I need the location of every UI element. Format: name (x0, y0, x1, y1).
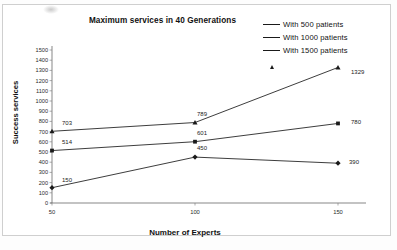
y-tick-label: 300 (22, 169, 48, 175)
y-tick-label: 1400 (22, 57, 48, 63)
series-2 (50, 65, 341, 133)
x-tick-label: 50 (37, 209, 67, 215)
x-tick-label: 100 (180, 209, 210, 215)
y-tick-label: 200 (22, 180, 48, 186)
chart-page: Maximum services in 40 Generations With … (0, 0, 397, 250)
data-point-label: 780 (351, 119, 361, 125)
y-tick-label: 600 (22, 139, 48, 145)
y-tick-label: 700 (22, 129, 48, 135)
data-point-label: 150 (62, 177, 72, 183)
data-point-label: 450 (197, 145, 207, 151)
data-point-label: 1329 (351, 69, 364, 75)
y-tick-label: 1500 (22, 47, 48, 53)
y-tick-label: 400 (22, 159, 48, 165)
x-tick-label: 150 (323, 209, 353, 215)
data-point-label: 514 (62, 139, 72, 145)
y-tick-label: 1200 (22, 78, 48, 84)
y-tick-label: 100 (22, 190, 48, 196)
series-1 (50, 122, 340, 153)
data-point-label: 390 (349, 159, 359, 165)
y-tick-label: 900 (22, 108, 48, 114)
data-point-label: 601 (197, 130, 207, 136)
y-tick-label: 1100 (22, 88, 48, 94)
plot-area: Success services Number of Experts 15001… (0, 0, 397, 250)
y-tick-label: 1300 (22, 67, 48, 73)
y-tick-label: 500 (22, 149, 48, 155)
data-point-label: 789 (197, 111, 207, 117)
y-tick-label: 0 (22, 200, 48, 206)
data-point-label: 703 (62, 120, 72, 126)
y-tick-label: 1000 (22, 98, 48, 104)
series-0 (49, 155, 340, 191)
y-tick-label: 800 (22, 118, 48, 124)
